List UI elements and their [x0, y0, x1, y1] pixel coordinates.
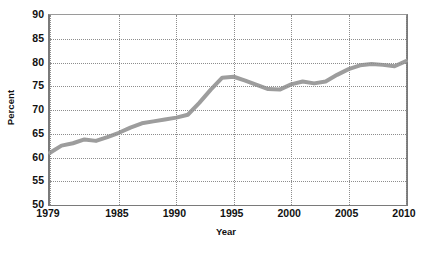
plot-area — [48, 14, 408, 206]
y-tick-label: 65 — [20, 128, 44, 139]
plot-inner — [50, 15, 406, 205]
gridline-horizontal — [50, 158, 406, 159]
y-tick-label: 85 — [20, 33, 44, 44]
gridline-horizontal — [50, 63, 406, 64]
y-axis-title-text: Percent — [6, 90, 17, 126]
x-tick-label: 1995 — [220, 208, 243, 219]
x-tick-label: 1985 — [105, 208, 128, 219]
y-tick-label: 55 — [20, 175, 44, 186]
y-tick-label: 60 — [20, 151, 44, 162]
gridline-vertical — [119, 15, 120, 205]
y-tick-label: 80 — [20, 56, 44, 67]
gridline-horizontal — [50, 86, 406, 87]
x-tick-label: 2000 — [277, 208, 300, 219]
gridline-horizontal — [50, 181, 406, 182]
y-tick-label: 90 — [20, 9, 44, 20]
y-tick-label: 70 — [20, 104, 44, 115]
line-chart: Percent 908580757065605550 1979198519901… — [0, 0, 423, 254]
gridline-vertical — [406, 15, 407, 205]
x-tick-label: 2010 — [392, 208, 415, 219]
series-polyline — [50, 61, 406, 153]
gridline-vertical — [50, 15, 51, 205]
gridline-vertical — [176, 15, 177, 205]
gridline-vertical — [234, 15, 235, 205]
x-axis-title-text: Year — [216, 226, 236, 237]
gridline-horizontal — [50, 134, 406, 135]
gridline-vertical — [349, 15, 350, 205]
x-tick-label: 1990 — [163, 208, 186, 219]
x-tick-label: 1979 — [36, 208, 59, 219]
x-tick-label: 2005 — [335, 208, 358, 219]
gridline-horizontal — [50, 39, 406, 40]
x-axis-title: Year — [48, 226, 404, 237]
gridline-vertical — [291, 15, 292, 205]
y-tick-label: 75 — [20, 80, 44, 91]
gridline-horizontal — [50, 110, 406, 111]
